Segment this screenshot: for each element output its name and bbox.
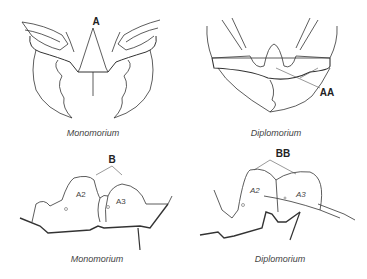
- segment-a2-diplomorium: A2: [250, 186, 260, 195]
- segment-a3-monomorium: A3: [116, 197, 126, 206]
- segment-a3-diplomorium: A3: [296, 190, 306, 199]
- caption-diplomorium-petiole: Diplomorium: [255, 254, 306, 264]
- diagram-canvas: [0, 0, 367, 279]
- caption-monomorium-head: Monomorium: [67, 128, 120, 138]
- segment-a2-monomorium: A2: [76, 190, 86, 199]
- diplomorium-petiole-drawing: [200, 160, 355, 240]
- monomorium-head-drawing: [22, 20, 160, 118]
- label-aa: AA: [320, 87, 334, 98]
- label-bb: BB: [276, 148, 290, 159]
- monomorium-petiole-drawing: [20, 166, 172, 250]
- caption-monomorium-petiole: Monomorium: [71, 254, 124, 264]
- label-a: A: [92, 16, 99, 27]
- caption-diplomorium-head: Diplomorium: [251, 128, 302, 138]
- label-b: B: [108, 154, 115, 165]
- diplomorium-head-drawing: [207, 18, 337, 112]
